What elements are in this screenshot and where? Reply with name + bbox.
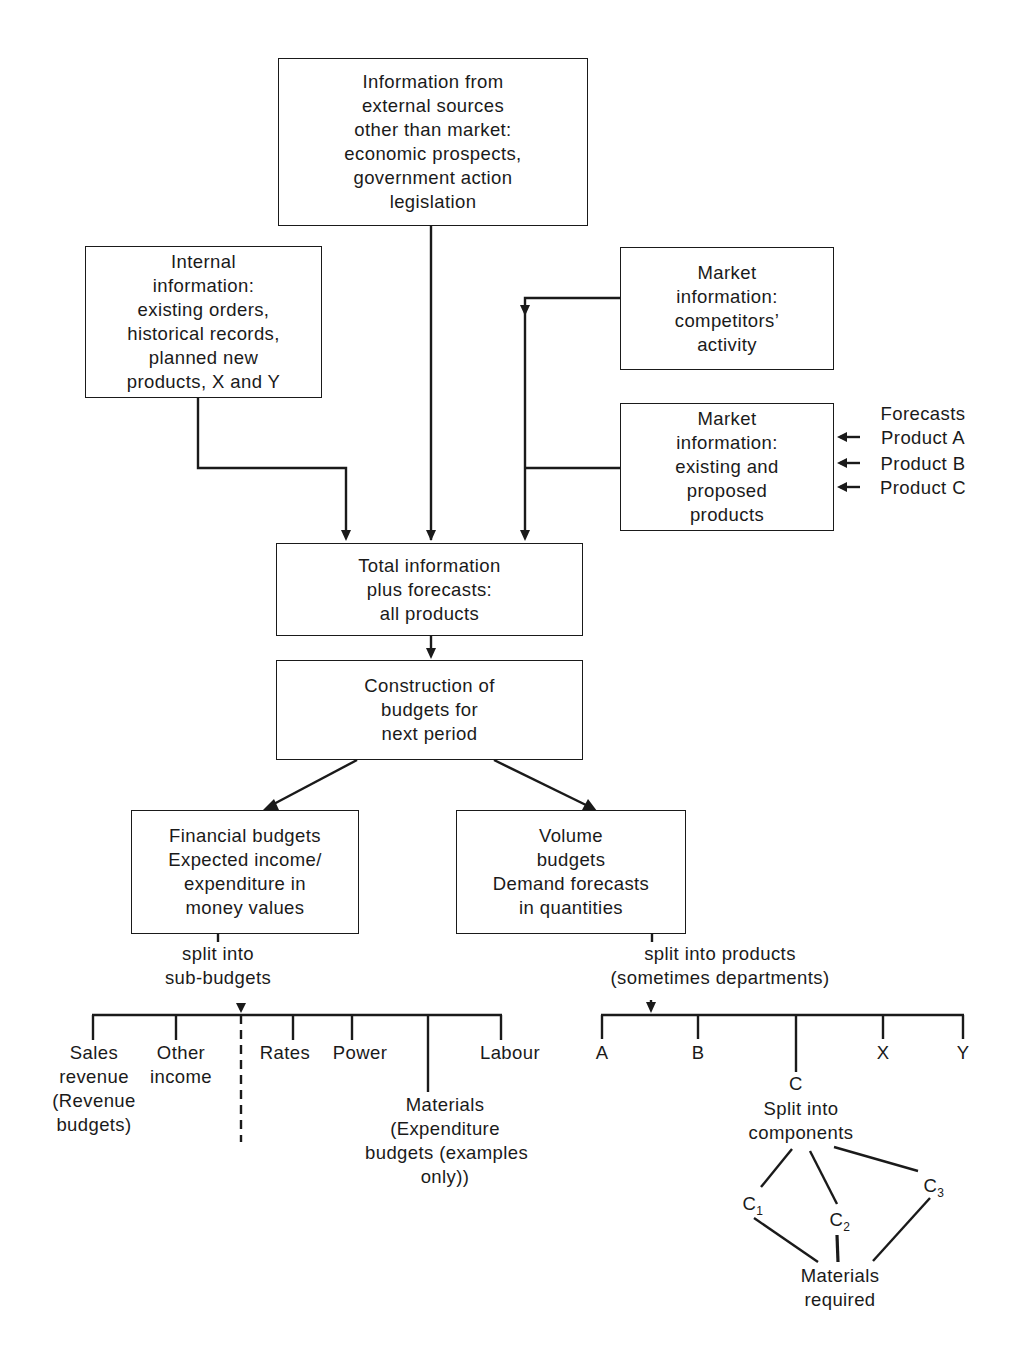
label-text: Sales [44, 1041, 144, 1065]
branch-sales-revenue: Sales revenue (Revenue budgets) [44, 1041, 144, 1137]
financial-budgets-box: Financial budgets Expected income/ expen… [131, 810, 359, 934]
label-text: Materials [365, 1093, 525, 1117]
external-sources-box: Information from external sources other … [278, 58, 588, 226]
box-text: government action [353, 166, 512, 190]
box-text: products [690, 503, 764, 527]
product-a: A [587, 1041, 617, 1065]
label-text: C [830, 1209, 844, 1230]
box-text: other than market: [354, 118, 511, 142]
label-text: (Revenue [44, 1089, 144, 1113]
box-text: competitors’ [675, 309, 780, 333]
forecasts-label: Forecasts Product A Product B Product C [868, 402, 978, 500]
materials-required-label: Materials required [780, 1264, 900, 1312]
subscript: 3 [937, 1186, 944, 1200]
box-text: existing and [675, 455, 779, 479]
branch-materials: Materials (Expenditure budgets (examples… [365, 1093, 525, 1189]
box-text: planned new [149, 346, 258, 370]
market-competitors-box: Market information: competitors’ activit… [620, 247, 834, 370]
box-text: external sources [362, 94, 504, 118]
component-c1: C1 [733, 1192, 773, 1223]
component-c2: C2 [820, 1208, 860, 1239]
box-text: next period [382, 722, 478, 746]
construction-box: Construction of budgets for next period [276, 660, 583, 760]
label-text: Power [325, 1041, 395, 1065]
box-text: budgets [537, 848, 606, 872]
box-text: Expected income/ [168, 848, 321, 872]
label-text: C [781, 1072, 811, 1096]
branch-labour: Labour [470, 1041, 550, 1065]
box-text: Total information [358, 554, 501, 578]
forecast-product-c: Product C [868, 476, 978, 500]
financial-split-label: split into sub-budgets [158, 942, 278, 990]
box-text: existing orders, [138, 298, 270, 322]
product-c: C [781, 1072, 811, 1096]
label-text: required [780, 1288, 900, 1312]
box-text: Volume [539, 824, 603, 848]
box-text: proposed [687, 479, 767, 503]
box-text: products, X and Y [127, 370, 281, 394]
volume-split-label: split into products (sometimes departmen… [590, 942, 850, 990]
label-text: budgets) [44, 1113, 144, 1137]
volume-budgets-box: Volume budgets Demand forecasts in quant… [456, 810, 686, 934]
box-text: in quantities [519, 896, 623, 920]
total-information-box: Total information plus forecasts: all pr… [276, 543, 583, 636]
label-text: (sometimes departments) [590, 966, 850, 990]
product-b: B [683, 1041, 713, 1065]
box-text: Market [698, 261, 757, 285]
label-text: B [683, 1041, 713, 1065]
branch-other-income: Other income [136, 1041, 226, 1089]
box-text: expenditure in [184, 872, 306, 896]
label-text: Y [948, 1041, 978, 1065]
label-text: split into products [590, 942, 850, 966]
label-text: Materials [780, 1264, 900, 1288]
label-text: X [868, 1041, 898, 1065]
subscript: 1 [756, 1204, 763, 1218]
box-text: Financial budgets [169, 824, 321, 848]
box-text: economic prospects, [344, 142, 521, 166]
box-text: historical records, [127, 322, 280, 346]
label-text: only)) [365, 1165, 525, 1189]
label-text: C [924, 1175, 938, 1196]
label-text: A [587, 1041, 617, 1065]
c-split-label: Split into components [741, 1097, 861, 1145]
label-text: (Expenditure [365, 1117, 525, 1141]
box-text: Construction of [364, 674, 494, 698]
product-x: X [868, 1041, 898, 1065]
box-text: Information from [362, 70, 503, 94]
box-text: information: [676, 431, 777, 455]
forecasts-title: Forecasts [868, 402, 978, 426]
box-text: Market [698, 407, 757, 431]
forecast-product-b: Product B [868, 452, 978, 476]
label-text: Labour [470, 1041, 550, 1065]
label-text: income [136, 1065, 226, 1089]
branch-rates: Rates [250, 1041, 320, 1065]
label-text: components [741, 1121, 861, 1145]
box-text: Demand forecasts [493, 872, 650, 896]
label-text: budgets (examples [365, 1141, 525, 1165]
label-text: C [743, 1193, 757, 1214]
box-text: money values [186, 896, 305, 920]
label-text: revenue [44, 1065, 144, 1089]
label-text: Other [136, 1041, 226, 1065]
box-text: activity [697, 333, 757, 357]
box-text: budgets for [381, 698, 478, 722]
forecast-product-a: Product A [868, 426, 978, 450]
label-text: Rates [250, 1041, 320, 1065]
box-text: information: [153, 274, 254, 298]
branch-power: Power [325, 1041, 395, 1065]
product-y: Y [948, 1041, 978, 1065]
box-text: plus forecasts: [367, 578, 492, 602]
subscript: 2 [843, 1220, 850, 1234]
box-text: information: [676, 285, 777, 309]
box-text: legislation [390, 190, 477, 214]
label-text: sub-budgets [158, 966, 278, 990]
market-products-box: Market information: existing and propose… [620, 403, 834, 531]
box-text: all products [380, 602, 479, 626]
component-c3: C3 [914, 1174, 954, 1205]
internal-information-box: Internal information: existing orders, h… [85, 246, 322, 398]
label-text: Split into [741, 1097, 861, 1121]
box-text: Internal [171, 250, 236, 274]
label-text: split into [158, 942, 278, 966]
